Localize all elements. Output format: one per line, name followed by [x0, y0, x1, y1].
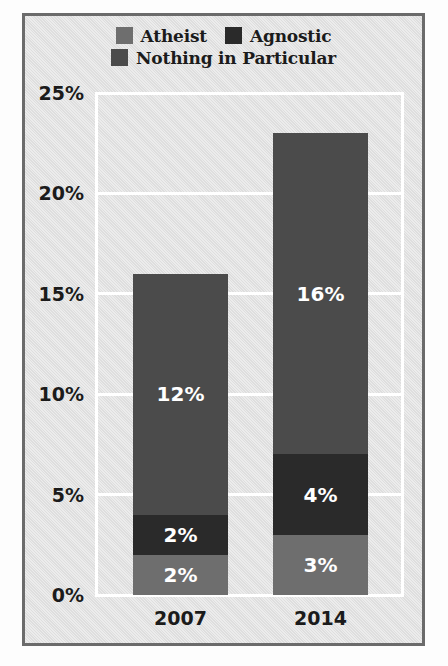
legend-item-agnostic: Agnostic [225, 26, 331, 47]
bar-value-label: 12% [157, 384, 205, 404]
gridline-25% [95, 92, 404, 95]
plot-area: 0%5%10%15%20%25% 12%2%2%200716%4%3%2014 [95, 93, 404, 595]
bar-value-label: 3% [304, 555, 338, 575]
legend-label-nothing-in-particular: Nothing in Particular [136, 48, 336, 69]
bar-segment-2007-agnostic[interactable]: 2% [133, 515, 228, 555]
bar-segment-2014-atheist[interactable]: 3% [273, 535, 368, 595]
legend-swatch-agnostic [225, 27, 242, 44]
y-axis-label-20%: 20% [39, 182, 84, 204]
chart-legend: Atheist Agnostic Nothing in Particular [25, 26, 422, 69]
y-axis-label-5%: 5% [52, 484, 84, 506]
bar-2014[interactable]: 16%4%3%2014 [273, 133, 368, 595]
legend-label-atheist: Atheist [141, 26, 207, 47]
y-axis-line [95, 93, 98, 595]
legend-item-nothing-in-particular: Nothing in Particular [111, 48, 336, 69]
bar-segment-2007-nothing-in-particular[interactable]: 12% [133, 274, 228, 515]
bar-value-label: 2% [164, 525, 198, 545]
bar-segment-2014-nothing-in-particular[interactable]: 16% [273, 133, 368, 454]
legend-label-agnostic: Agnostic [250, 26, 331, 47]
x-axis-label-2007: 2007 [133, 607, 228, 629]
legend-row-2: Nothing in Particular [25, 47, 422, 68]
legend-row-1: Atheist Agnostic [25, 26, 422, 47]
bar-value-label: 4% [304, 485, 338, 505]
y-axis-label-25%: 25% [39, 82, 84, 104]
legend-swatch-atheist [116, 27, 133, 44]
legend-swatch-nothing-in-particular [111, 49, 128, 66]
bar-2007[interactable]: 12%2%2%2007 [133, 274, 228, 595]
legend-item-atheist: Atheist [116, 26, 207, 47]
y-axis-label-10%: 10% [39, 383, 84, 405]
bar-value-label: 16% [297, 284, 345, 304]
x-axis-label-2014: 2014 [273, 607, 368, 629]
chart-panel: Atheist Agnostic Nothing in Particular 0… [22, 13, 425, 646]
plot-right-edge [401, 93, 404, 595]
bar-segment-2007-atheist[interactable]: 2% [133, 555, 228, 595]
chart-page: Atheist Agnostic Nothing in Particular 0… [0, 0, 448, 666]
y-axis-label-15%: 15% [39, 283, 84, 305]
bar-value-label: 2% [164, 565, 198, 585]
y-axis-label-0%: 0% [52, 584, 84, 606]
bar-segment-2014-agnostic[interactable]: 4% [273, 454, 368, 534]
